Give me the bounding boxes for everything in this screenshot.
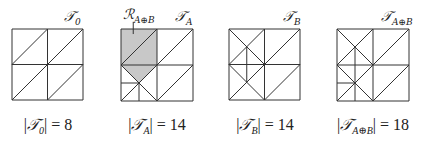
label-t0: 𝒯0 (64, 8, 81, 27)
label-tb: 𝒯B (283, 8, 301, 27)
label-tab: 𝒯A⊕B (381, 8, 413, 27)
label-region-ab: ℛA⊕B (123, 6, 155, 25)
caption-tb: |𝒯B| = 14 (236, 115, 294, 136)
mesh-tb (229, 29, 300, 100)
caption-ta: |𝒯A| = 14 (128, 115, 186, 136)
mesh-tab (337, 29, 409, 101)
mesh-t0 (12, 29, 83, 100)
mesh-ta (121, 22, 193, 101)
caption-tab: |𝒯A⊕B| = 18 (337, 115, 409, 136)
caption-t0: |𝒯0| = 8 (24, 115, 72, 136)
label-ta: 𝒯A (175, 8, 193, 27)
